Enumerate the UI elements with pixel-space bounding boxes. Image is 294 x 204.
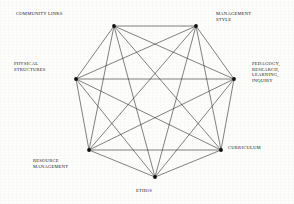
graph-edge — [76, 79, 155, 177]
graph-edge — [196, 26, 234, 79]
graph-edge — [114, 26, 234, 79]
graph-edge — [196, 26, 221, 150]
graph-edge — [114, 26, 155, 177]
graph-node-pedagogy-research[interactable] — [232, 77, 236, 81]
graph-edge — [89, 150, 155, 177]
graph-edge — [221, 79, 234, 150]
graph-edge — [155, 150, 221, 177]
node-label-pedagogy-research: PEDAGOGY, RESEARCH, LEARNING, INQUIRY — [252, 61, 280, 83]
graph-node-management-style[interactable] — [194, 24, 198, 28]
graph-node-physical-structures[interactable] — [74, 77, 78, 81]
node-label-physical-structures: PHYSICAL STRUCTURES — [14, 61, 46, 72]
graph-edge — [76, 26, 196, 79]
node-layer — [74, 24, 236, 179]
graph-edge — [76, 79, 89, 150]
graph-edge — [89, 26, 114, 150]
node-label-curriculum: CURRICULUM — [228, 145, 261, 151]
graph-node-resource-management[interactable] — [87, 148, 91, 152]
node-label-ethos: ETHOS — [136, 188, 152, 194]
graph-edge — [89, 79, 234, 150]
node-label-management-style: MANAGEMENT STYLE — [216, 11, 251, 22]
graph-edge — [76, 79, 221, 150]
graph-node-community-links[interactable] — [112, 24, 116, 28]
graph-edge — [155, 26, 196, 177]
heptagon-complete-graph — [0, 0, 294, 204]
edge-layer — [76, 26, 234, 177]
graph-node-ethos[interactable] — [153, 175, 157, 179]
graph-node-curriculum[interactable] — [219, 148, 223, 152]
node-label-community-links: COMMUNITY LINKS — [16, 11, 63, 17]
graph-edge — [155, 79, 234, 177]
graph-edge — [76, 26, 114, 79]
node-label-resource-management: RESOURCE MANAGEMENT — [33, 158, 68, 169]
diagram-canvas: COMMUNITY LINKS MANAGEMENT STYLE PEDAGOG… — [0, 0, 294, 204]
